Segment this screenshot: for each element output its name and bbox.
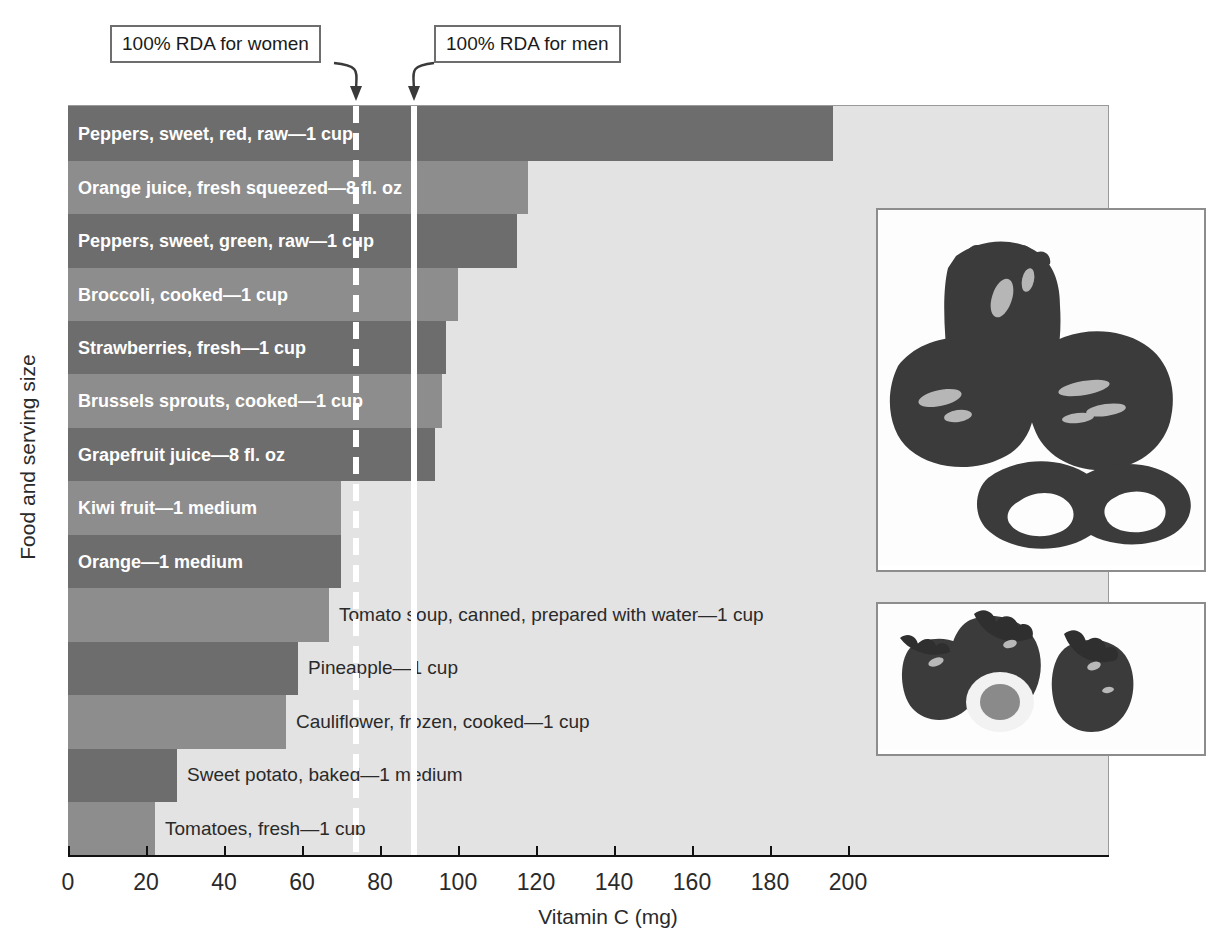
strawberries-illustration — [878, 604, 1200, 750]
bar-brussels-sprouts: Brussels sprouts, cooked—1 cup — [68, 374, 442, 428]
x-tick — [302, 846, 304, 855]
x-tick — [536, 846, 538, 855]
x-tick — [692, 846, 694, 855]
x-tick-label: 120 — [517, 869, 555, 896]
x-tick-label: 20 — [133, 869, 159, 896]
callout-rda-women: 100% RDA for women — [110, 25, 321, 63]
x-tick — [224, 846, 226, 855]
x-tick — [68, 846, 70, 855]
bar-grapefruit-juice: Grapefruit juice—8 fl. oz — [68, 428, 435, 481]
bar-label: Brussels sprouts, cooked—1 cup — [78, 391, 363, 412]
x-tick — [614, 846, 616, 855]
x-tick — [770, 846, 772, 855]
red-bell-peppers-photo — [876, 208, 1206, 572]
bar-broccoli: Broccoli, cooked—1 cup — [68, 268, 458, 321]
bar-label: Broccoli, cooked—1 cup — [78, 284, 288, 305]
x-tick-label: 0 — [62, 869, 75, 896]
x-axis: 0 20 40 60 80 100 120 140 160 180 200 — [68, 855, 1109, 857]
bar-label: Kiwi fruit—1 medium — [78, 498, 257, 519]
bar-label: Grapefruit juice—8 fl. oz — [78, 444, 285, 465]
bar-outside-label: Pineapple—1 cup — [308, 657, 458, 679]
bar-outside-label: Tomato soup, canned, prepared with water… — [339, 604, 764, 626]
bar-orange: Orange—1 medium — [68, 535, 341, 588]
x-tick — [146, 846, 148, 855]
rda-women-line — [353, 106, 359, 856]
bar-tomatoes — [68, 802, 155, 856]
bar-tomato-soup — [68, 588, 329, 642]
bar-outside-label: Cauliflower, frozen, cooked—1 cup — [296, 711, 590, 733]
bar-label: Peppers, sweet, green, raw—1 cup — [78, 231, 374, 252]
bar-kiwi: Kiwi fruit—1 medium — [68, 481, 341, 535]
x-tick-label: 80 — [367, 869, 393, 896]
bar-label: Strawberries, fresh—1 cup — [78, 337, 306, 358]
x-tick-label: 160 — [673, 869, 711, 896]
x-tick-label: 180 — [751, 869, 789, 896]
bar-sweet-potato — [68, 749, 177, 802]
x-tick-label: 200 — [829, 869, 867, 896]
callout-rda-men: 100% RDA for men — [434, 25, 621, 63]
bar-peppers-green: Peppers, sweet, green, raw—1 cup — [68, 214, 517, 268]
peppers-illustration — [878, 210, 1200, 566]
bar-label: Peppers, sweet, red, raw—1 cup — [78, 123, 353, 144]
strawberries-photo — [876, 602, 1206, 756]
x-tick-label: 140 — [595, 869, 633, 896]
bar-peppers-red: Peppers, sweet, red, raw—1 cup — [68, 106, 833, 161]
vitamin-c-bar-chart: 100% RDA for women 100% RDA for men Pepp… — [0, 0, 1216, 949]
bar-strawberries: Strawberries, fresh—1 cup — [68, 321, 446, 374]
x-tick-label: 100 — [439, 869, 477, 896]
y-axis-title: Food and serving size — [16, 307, 40, 607]
x-tick — [458, 846, 460, 855]
x-tick-label: 60 — [289, 869, 315, 896]
rda-men-line — [411, 106, 417, 856]
x-tick — [848, 846, 850, 855]
bar-label: Orange—1 medium — [78, 551, 243, 572]
x-axis-title: Vitamin C (mg) — [0, 905, 1216, 929]
bar-cauliflower — [68, 695, 286, 749]
bar-pineapple — [68, 642, 298, 695]
bar-outside-label: Sweet potato, baked—1 medium — [187, 764, 463, 786]
x-tick-label: 40 — [211, 869, 237, 896]
x-tick — [380, 846, 382, 855]
bar-orange-juice: Orange juice, fresh squeezed—8 fl. oz — [68, 161, 528, 214]
bar-outside-label: Tomatoes, fresh—1 cup — [165, 818, 366, 840]
